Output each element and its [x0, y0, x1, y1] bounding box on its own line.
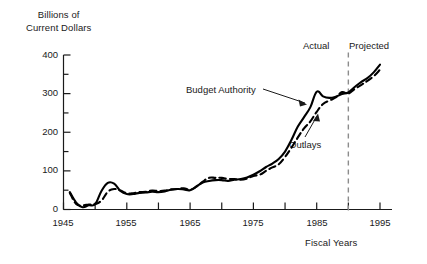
plot-area [0, 0, 427, 264]
axes [64, 55, 393, 210]
data-series [70, 65, 380, 208]
annotation-leader-lines [263, 89, 320, 137]
budget-authority-leader [263, 89, 307, 107]
x-axis-ticks [64, 203, 381, 210]
y-axis-ticks [64, 55, 71, 210]
series-line-budget-authority [70, 65, 380, 208]
chart-figure: Billions of Current Dollars 400 300 200 … [0, 0, 427, 264]
